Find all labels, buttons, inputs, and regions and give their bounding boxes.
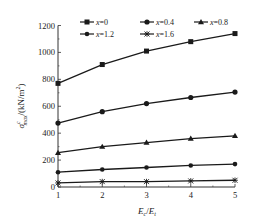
legend-item: x=1.6 (140, 30, 174, 39)
line-chart: 02004006008001000120012345 x=0x=0.4x=0.8… (0, 0, 257, 224)
asterisk-marker-icon (188, 178, 194, 184)
asterisk-marker-icon (144, 31, 150, 37)
y-tick-label: 600 (42, 101, 55, 111)
y-axis-title: σcmax/(kN/m2) (15, 83, 28, 128)
asterisk-marker-icon (144, 179, 150, 185)
diamond-marker-icon (232, 90, 237, 95)
y-tick-label: 800 (42, 74, 55, 84)
x-tick-label: 3 (144, 190, 148, 200)
legend-label: x=0.8 (209, 18, 228, 27)
square-marker-icon (144, 49, 149, 54)
square-marker-icon (100, 62, 105, 67)
square-marker-icon (188, 39, 193, 44)
circle-marker-icon (56, 170, 61, 175)
series-x-0 (56, 31, 238, 86)
series-line (58, 34, 235, 84)
circle-marker-icon (100, 167, 105, 172)
y-tick-label: 400 (42, 128, 55, 138)
legend-item: x=1.2 (80, 30, 114, 39)
asterisk-marker-icon (99, 179, 105, 185)
diamond-marker-icon (100, 109, 105, 114)
y-tick-label: 1200 (38, 21, 55, 31)
circle-marker-icon (144, 165, 149, 170)
legend-label: x=1.2 (95, 30, 114, 39)
diamond-marker-icon (144, 19, 149, 24)
legend-label: x=1.6 (155, 30, 174, 39)
y-tick-label: 1000 (38, 47, 55, 57)
legend: x=0x=0.4x=0.8x=1.2x=1.6 (80, 18, 228, 39)
circle-marker-icon (188, 163, 193, 168)
square-marker-icon (85, 20, 90, 25)
y-tick-label: 0 (51, 182, 55, 192)
legend-label: x=0 (95, 18, 108, 27)
legend-label: x=0.4 (155, 18, 174, 27)
legend-item: x=0.4 (140, 18, 174, 27)
diamond-marker-icon (144, 101, 149, 106)
legend-item: x=0.8 (194, 18, 228, 27)
series-x-1-2 (56, 162, 238, 175)
x-tick-label: 1 (56, 190, 60, 200)
circle-marker-icon (233, 162, 238, 167)
diamond-marker-icon (55, 120, 60, 125)
asterisk-marker-icon (232, 177, 238, 183)
asterisk-marker-icon (55, 180, 61, 186)
legend-item: x=0 (80, 18, 108, 27)
series-x-0-4 (55, 90, 237, 126)
x-tick-label: 5 (233, 190, 237, 200)
square-marker-icon (233, 31, 238, 36)
series-line (58, 92, 235, 123)
series-group (55, 31, 238, 186)
series-x-0-8 (55, 133, 238, 155)
x-tick-label: 2 (100, 190, 104, 200)
circle-marker-icon (85, 32, 90, 37)
axes: 02004006008001000120012345 (38, 21, 237, 201)
x-tick-label: 4 (189, 190, 194, 200)
y-tick-label: 200 (42, 155, 55, 165)
diamond-marker-icon (188, 95, 193, 100)
square-marker-icon (56, 81, 61, 86)
x-axis-title: Ec/Et (137, 206, 156, 217)
